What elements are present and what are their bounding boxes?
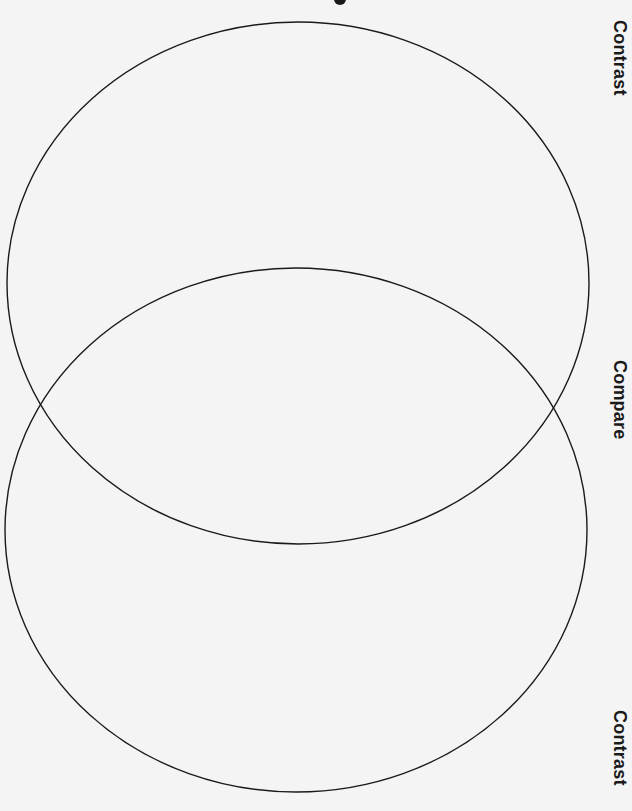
- venn-circles: [0, 0, 632, 811]
- contrast-label-top: Contrast: [605, 20, 632, 96]
- upper-circle: [7, 22, 589, 544]
- lower-circle: [5, 268, 587, 792]
- compare-label: Compare: [605, 360, 632, 439]
- contrast-label-bottom: Contrast: [605, 710, 632, 786]
- venn-diagram: Contrast Compare Contrast: [0, 0, 632, 811]
